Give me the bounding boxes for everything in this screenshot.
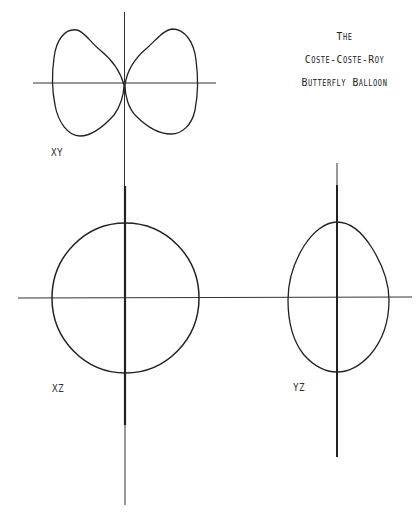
yz-view-label: YZ [293, 381, 305, 394]
xz-view-label: XZ [52, 382, 64, 395]
xz-yz-horizontal-axis [18, 297, 412, 298]
title-line-3: Butterfly Balloon [279, 71, 410, 94]
title-line-1: The [279, 25, 410, 48]
xy-right-lobe [125, 29, 197, 134]
xy-view-label: XY [51, 146, 63, 159]
diagram-title: The Coste-Coste-Roy Butterfly Balloon [270, 25, 419, 94]
title-line-2: Coste-Coste-Roy [279, 48, 410, 71]
